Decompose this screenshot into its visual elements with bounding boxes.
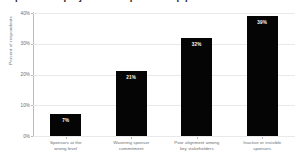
bar[interactable]: 7% bbox=[50, 114, 81, 136]
y-tick-label: 10% bbox=[6, 103, 30, 108]
bar-value-label: 32% bbox=[181, 42, 212, 47]
plot-area: 7%21%32%39% bbox=[33, 13, 295, 136]
gridline bbox=[33, 136, 295, 137]
chart-title: Top reasons projects fail: sponsorship p… bbox=[4, 0, 294, 2]
x-category-label-line: commitment bbox=[99, 146, 165, 152]
bar[interactable]: 21% bbox=[116, 71, 147, 136]
x-category-label: Poor alignment amongkey stakeholders bbox=[164, 140, 230, 151]
x-tick-mark bbox=[197, 137, 198, 139]
x-category-label: Inactive or invisiblesponsors bbox=[230, 140, 296, 151]
x-tick-mark bbox=[66, 137, 67, 139]
y-tick-label: 30% bbox=[6, 41, 30, 46]
y-tick-label: 0% bbox=[6, 134, 30, 139]
chart-figure: Top reasons projects fail: sponsorship p… bbox=[0, 0, 298, 165]
y-tick-label: 20% bbox=[6, 72, 30, 77]
bar[interactable]: 32% bbox=[181, 38, 212, 136]
x-tick-mark bbox=[131, 137, 132, 139]
gridline bbox=[33, 13, 295, 14]
x-category-label-line: key stakeholders bbox=[164, 146, 230, 152]
bar[interactable]: 39% bbox=[247, 16, 278, 136]
bar-value-label: 7% bbox=[50, 118, 81, 123]
x-category-label: Wavering sponsorcommitment bbox=[99, 140, 165, 151]
x-category-label: Sponsors at thewrong level bbox=[33, 140, 99, 151]
x-tick-mark bbox=[262, 137, 263, 139]
y-tick-label: 40% bbox=[6, 11, 30, 16]
bar-value-label: 21% bbox=[116, 75, 147, 80]
x-category-label-line: wrong level bbox=[33, 146, 99, 152]
chart-title-strip: Top reasons projects fail: sponsorship p… bbox=[0, 0, 298, 5]
bar-value-label: 39% bbox=[247, 20, 278, 25]
x-category-label-line: sponsors bbox=[230, 146, 296, 152]
